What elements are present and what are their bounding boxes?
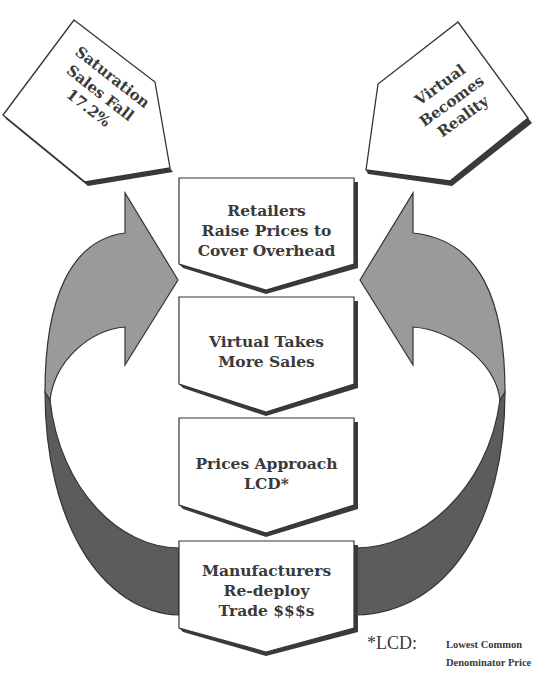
flow-box-4-label: Manufacturers Re-deploy Trade $$$s (179, 561, 354, 620)
flow-box-4-line-2: Re-deploy (179, 581, 354, 601)
flow-box-3-label: Prices Approach LCD* (179, 454, 354, 494)
left-curved-arrow (45, 193, 178, 400)
flow-box-4-line-3: Trade $$$s (179, 601, 354, 621)
footnote-key: *LCD: (367, 633, 417, 654)
flow-box-2-label: Virtual Takes More Sales (179, 332, 354, 372)
left-dark-band (45, 392, 179, 615)
footnote-line-2: Denominator Price (446, 654, 531, 672)
flow-box-2-line-1: Virtual Takes (179, 332, 354, 352)
footnote-text: Lowest Common Denominator Price (446, 636, 531, 672)
flow-box-1-label: Retailers Raise Prices to Cover Overhead (179, 201, 354, 260)
flow-box-3-line-1: Prices Approach (179, 454, 354, 474)
flow-box-4-line-1: Manufacturers (179, 561, 354, 581)
flow-box-3-line-2: LCD* (179, 474, 354, 494)
flow-box-1-line-3: Cover Overhead (179, 241, 354, 261)
right-curved-arrow (360, 193, 505, 400)
flow-box-2-line-2: More Sales (179, 352, 354, 372)
footnote-line-1: Lowest Common (446, 636, 531, 654)
flow-box-1-line-2: Raise Prices to (179, 221, 354, 241)
right-dark-band (356, 392, 505, 615)
flow-box-1-line-1: Retailers (179, 201, 354, 221)
